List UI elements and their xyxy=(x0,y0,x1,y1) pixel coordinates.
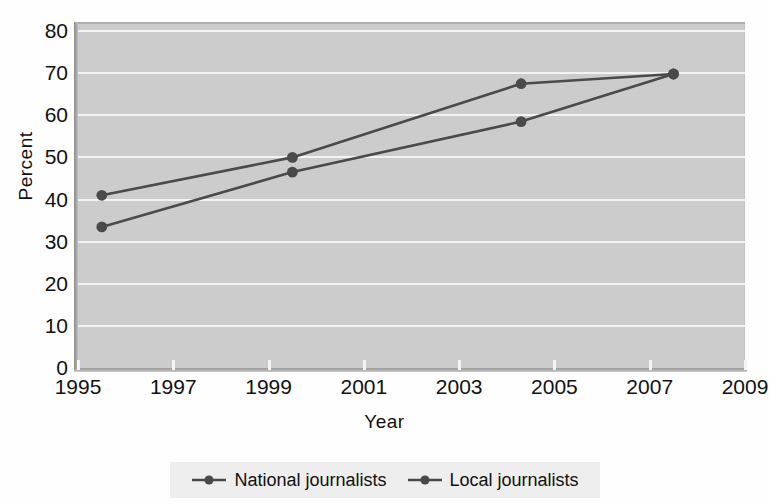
legend-label: Local journalists xyxy=(450,471,579,489)
legend-marker-icon xyxy=(407,473,443,487)
legend-entry[interactable]: Local journalists xyxy=(407,471,579,489)
y-axis-tick-label: 30 xyxy=(20,231,68,252)
data-point xyxy=(516,78,527,89)
x-axis-tick-label: 2009 xyxy=(705,376,769,398)
legend-marker-icon xyxy=(191,473,227,487)
data-series-layer xyxy=(76,22,745,370)
series-line-2 xyxy=(102,74,674,227)
y-axis-title: Percent xyxy=(15,116,37,216)
x-axis-tick-label: 1999 xyxy=(229,376,309,398)
y-axis-tick-label: 80 xyxy=(20,20,68,41)
x-axis-tick-label: 2007 xyxy=(610,376,690,398)
x-axis-tick-label: 1997 xyxy=(133,376,213,398)
y-axis-tick-label: 10 xyxy=(20,315,68,336)
legend-entry[interactable]: National journalists xyxy=(191,471,386,489)
x-axis-tick-label: 2001 xyxy=(324,376,404,398)
legend-label: National journalists xyxy=(234,471,386,489)
data-point xyxy=(668,69,679,80)
y-axis-tick-label: 20 xyxy=(20,273,68,294)
chart-figure: 80706050403020100 1995199719992001200320… xyxy=(0,0,769,504)
x-axis-title: Year xyxy=(0,411,769,433)
data-point xyxy=(287,152,298,163)
y-axis-tick-label: 70 xyxy=(20,62,68,83)
x-axis-tick-label: 2003 xyxy=(419,376,499,398)
data-point xyxy=(96,190,107,201)
data-point xyxy=(96,222,107,233)
chart-legend: National journalistsLocal journalists xyxy=(170,462,600,498)
data-point xyxy=(287,167,298,178)
x-axis-tick-label: 1995 xyxy=(38,376,118,398)
chart-title xyxy=(150,0,500,3)
data-point xyxy=(516,116,527,127)
series-line-1 xyxy=(102,74,674,195)
x-axis-tick-label: 2005 xyxy=(514,376,594,398)
